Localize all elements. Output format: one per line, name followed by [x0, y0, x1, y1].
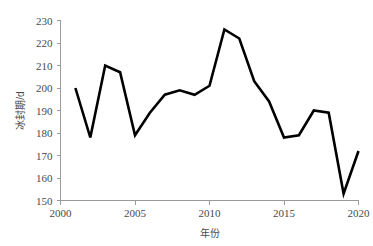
y-tick-label: 190	[36, 105, 53, 117]
x-tick-label: 2015	[273, 207, 296, 219]
y-tick-label: 230	[36, 15, 53, 27]
y-tick-label: 170	[36, 150, 53, 162]
x-tick-label: 2020	[348, 207, 371, 219]
data-series-line	[75, 30, 358, 194]
y-tick-label: 220	[36, 37, 53, 49]
x-axis-tick-labels: 20002005201020152020	[50, 207, 371, 219]
x-axis-title: 年份	[200, 227, 220, 239]
x-tick-label: 2010	[199, 207, 222, 219]
y-tick-label: 150	[36, 195, 53, 207]
x-tick-label: 2000	[50, 207, 73, 219]
y-axis-tick-labels: 150160170180190200210220230	[36, 15, 53, 207]
y-tick-label: 210	[36, 60, 53, 72]
y-tick-label: 180	[36, 127, 53, 139]
y-tick-label: 200	[36, 82, 53, 94]
y-axis-title: 冰封期/d	[14, 91, 26, 129]
x-tick-label: 2005	[124, 207, 147, 219]
y-tick-label: 160	[36, 172, 53, 184]
chart-container: 150160170180190200210220230 200020052010…	[0, 0, 373, 246]
y-axis-tick-marks	[57, 21, 61, 201]
line-chart: 150160170180190200210220230 200020052010…	[0, 0, 373, 246]
x-axis-tick-marks	[61, 201, 359, 205]
